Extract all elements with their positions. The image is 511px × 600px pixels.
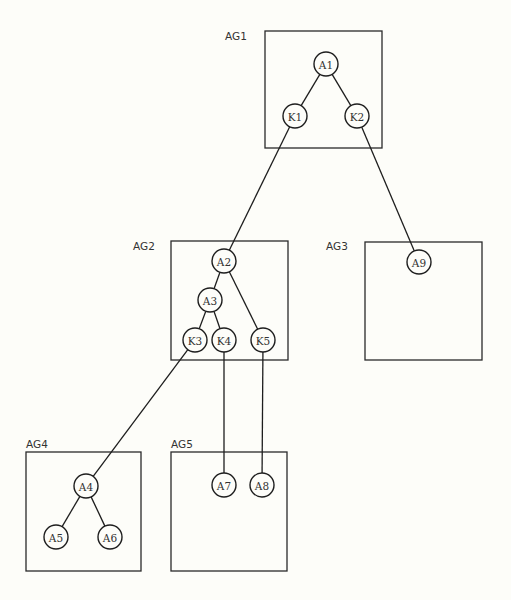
edge-k2-a9 xyxy=(362,127,415,251)
edge-a2-k5 xyxy=(229,272,257,329)
group-box-ag1 xyxy=(265,31,382,148)
group-box-ag5 xyxy=(171,452,287,571)
edge-a4-a5 xyxy=(62,496,80,526)
edges xyxy=(62,74,414,526)
node-label: A8 xyxy=(254,480,269,492)
node-k3: K3 xyxy=(183,328,207,352)
group-label-ag3: AG3 xyxy=(326,240,348,252)
node-a1: A1 xyxy=(314,52,338,76)
group-label-ag4: AG4 xyxy=(26,438,48,450)
node-a8: A8 xyxy=(250,473,274,497)
group-label-ag2: AG2 xyxy=(133,240,155,252)
group-labels: AG1AG2AG3AG4AG5 xyxy=(26,30,348,450)
node-label: A4 xyxy=(78,481,94,493)
node-a5: A5 xyxy=(44,525,68,549)
edge-a1-k1 xyxy=(301,74,320,105)
node-label: K2 xyxy=(350,111,365,123)
nodes: A1K1K2A2A3K3K4K5A9A4A5A6A7A8 xyxy=(44,52,431,549)
edge-a4-a6 xyxy=(91,497,105,526)
node-label: A9 xyxy=(411,257,426,269)
node-label: K3 xyxy=(188,335,203,347)
node-a3: A3 xyxy=(198,288,222,312)
node-label: A7 xyxy=(216,480,231,492)
group-label-ag1: AG1 xyxy=(225,30,247,42)
edge-k5-a8 xyxy=(262,352,263,473)
edge-a2-a3 xyxy=(214,272,220,288)
node-label: A2 xyxy=(216,256,231,268)
diagram-canvas: AG1AG2AG3AG4AG5 A1K1K2A2A3K3K4K5A9A4A5A6… xyxy=(0,0,511,600)
node-label: K1 xyxy=(288,111,303,123)
group-label-ag5: AG5 xyxy=(171,438,193,450)
node-k2: K2 xyxy=(345,104,369,128)
node-a6: A6 xyxy=(98,525,122,549)
node-label: A3 xyxy=(202,295,217,307)
node-k4: K4 xyxy=(212,328,236,352)
node-label: K5 xyxy=(256,335,271,347)
edge-a3-k4 xyxy=(214,311,220,328)
edge-a1-k2 xyxy=(332,74,351,105)
node-a9: A9 xyxy=(407,250,431,274)
node-label: A5 xyxy=(48,532,63,544)
edge-a3-k3 xyxy=(199,311,206,329)
node-a2: A2 xyxy=(212,249,236,273)
edge-k1-a2 xyxy=(229,127,289,250)
node-a4: A4 xyxy=(74,474,98,498)
group-box-ag4 xyxy=(26,452,141,571)
node-label: A6 xyxy=(102,532,118,544)
node-k5: K5 xyxy=(251,328,275,352)
node-label: K4 xyxy=(217,335,232,347)
node-a7: A7 xyxy=(212,473,236,497)
node-k1: K1 xyxy=(283,104,307,128)
node-label: A1 xyxy=(318,59,333,71)
